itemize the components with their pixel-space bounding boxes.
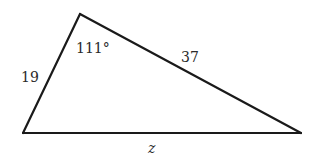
bottom-side-unknown-label: z	[147, 140, 156, 156]
right-side-length-label: 37	[181, 49, 199, 65]
top-right-side-edge	[80, 14, 301, 133]
left-side-length-label: 19	[21, 69, 39, 85]
top-angle-label: 111°	[76, 40, 110, 56]
triangle-diagram: 19 111° 37 z	[0, 0, 316, 165]
